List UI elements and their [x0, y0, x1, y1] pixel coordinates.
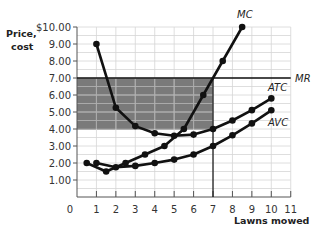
- y-tick-label: $10.00: [36, 22, 71, 33]
- atc-point: [210, 126, 217, 133]
- avc-point: [132, 163, 139, 170]
- x-tick-label: 9: [249, 204, 255, 215]
- avc-point: [93, 160, 100, 167]
- x-tick-label: 10: [265, 204, 278, 215]
- atc-point: [249, 107, 256, 114]
- mc-label: MC: [237, 9, 253, 20]
- x-tick-label: 11: [284, 204, 297, 215]
- atc-point: [171, 133, 178, 140]
- atc-point: [151, 130, 158, 137]
- mr-label: MR: [295, 73, 311, 84]
- y-tick-label: 8.00: [49, 56, 71, 67]
- x-tick-label: 0: [67, 204, 73, 215]
- x-tick-label: 6: [190, 204, 196, 215]
- mc-point: [219, 58, 226, 65]
- atc-label: ATC: [267, 82, 287, 93]
- avc-point: [151, 160, 158, 167]
- avc-label: AVC: [267, 117, 288, 128]
- cost-curves-chart: 1.002.003.004.005.006.007.008.009.00$10.…: [0, 0, 324, 238]
- x-tick-label: 4: [152, 204, 158, 215]
- y-tick-label: 3.00: [49, 141, 71, 152]
- y-tick-label: 9.00: [49, 39, 71, 50]
- x-tick-label: 2: [113, 204, 119, 215]
- atc-point: [229, 117, 236, 124]
- y-axis-title-line1: Price,: [6, 28, 37, 39]
- avc-point: [229, 132, 236, 139]
- x-tick-label: 1: [93, 204, 99, 215]
- mc-point: [83, 160, 90, 167]
- x-tick-label: 7: [210, 204, 216, 215]
- y-tick-label: 7.00: [49, 73, 71, 84]
- avc-point: [171, 156, 178, 163]
- mc-point: [239, 24, 246, 31]
- mc-point: [142, 151, 149, 158]
- y-tick-label: 2.00: [49, 158, 71, 169]
- avc-point: [113, 164, 120, 171]
- y-axis-title-line2: cost: [11, 41, 34, 52]
- x-tick-label: 3: [132, 204, 138, 215]
- mc-point: [181, 126, 188, 133]
- atc-point: [93, 41, 100, 48]
- avc-point: [190, 151, 197, 158]
- y-tick-label: 6.00: [49, 90, 71, 101]
- avc-point: [210, 143, 217, 150]
- x-axis-title: Lawns mowed: [234, 215, 309, 226]
- atc-point: [113, 104, 120, 111]
- x-tick-label: 8: [229, 204, 235, 215]
- y-tick-label: 1.00: [49, 175, 71, 186]
- mc-point: [200, 92, 207, 99]
- y-tick-label: 5.00: [49, 107, 71, 118]
- mc-point: [103, 168, 110, 175]
- x-tick-label: 5: [171, 204, 177, 215]
- atc-point: [268, 95, 275, 102]
- avc-point: [268, 107, 275, 114]
- atc-point: [132, 123, 139, 130]
- atc-point: [190, 131, 197, 138]
- y-tick-label: 4.00: [49, 124, 71, 135]
- avc-point: [249, 120, 256, 127]
- mc-point: [161, 143, 168, 150]
